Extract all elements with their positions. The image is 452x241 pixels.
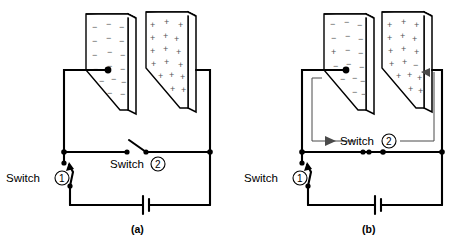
svg-text:−: −	[344, 17, 349, 27]
panel-b-caption: (b)	[362, 223, 375, 235]
svg-text:+: +	[150, 20, 155, 30]
panel-b-switch1-label-text: Switch	[244, 172, 278, 184]
capacitor-switch-figure: − − − − − − − − − − − − − − − − −	[0, 0, 452, 241]
svg-text:−: −	[361, 89, 366, 99]
svg-text:+: +	[414, 47, 419, 57]
svg-text:−: −	[119, 22, 124, 32]
panel-a-right-plate: + + + + + + + + + + + + + + + + +	[146, 12, 196, 112]
svg-text:+: +	[176, 47, 181, 57]
svg-text:−: −	[106, 19, 111, 29]
svg-text:−: −	[107, 88, 112, 98]
svg-text:−: −	[330, 19, 335, 29]
svg-text:+: +	[412, 34, 417, 44]
svg-text:−: −	[92, 50, 97, 60]
svg-text:+: +	[170, 84, 175, 94]
svg-text:+: +	[174, 34, 179, 44]
panel-b-node-left	[299, 149, 305, 155]
svg-text:+: +	[402, 57, 407, 67]
svg-text:−: −	[359, 62, 364, 72]
svg-text:+: +	[388, 46, 393, 56]
svg-text:+: +	[414, 20, 419, 30]
svg-text:+: +	[150, 33, 155, 43]
svg-text:+: +	[418, 86, 423, 96]
panel-a-left-plate: − − − − − − − − − − − − − − − − −	[86, 14, 136, 114]
svg-text:−: −	[121, 77, 126, 87]
panel-a-switch2-label: Switch 2	[110, 157, 165, 171]
svg-text:+: +	[331, 47, 336, 57]
svg-text:−: −	[345, 45, 350, 55]
svg-text:−: −	[107, 47, 112, 57]
svg-text:−: −	[331, 33, 336, 43]
panel-b-switch2-label: Switch 2	[340, 134, 396, 148]
svg-text:−: −	[357, 20, 362, 30]
svg-text:+: +	[150, 46, 155, 56]
panel-a-left-plate-terminal	[105, 67, 112, 74]
svg-text:−: −	[92, 36, 97, 46]
panel-a-node-left	[61, 149, 67, 155]
svg-text:+: +	[396, 71, 401, 81]
svg-text:−: −	[120, 50, 125, 60]
svg-text:−: −	[111, 74, 116, 84]
panel-a: − − − − − − − − − − − − − − − − −	[6, 12, 213, 235]
svg-text:+: +	[408, 84, 413, 94]
panel-b-node-right	[439, 149, 445, 155]
svg-text:+: +	[151, 59, 156, 69]
svg-text:+: +	[158, 71, 163, 81]
svg-text:+: +	[178, 60, 183, 70]
panel-b-switch2-number: 2	[386, 136, 392, 147]
svg-text:−: −	[92, 22, 97, 32]
svg-text:−: −	[340, 74, 345, 84]
panel-a-caption: (a)	[131, 223, 144, 235]
svg-text:+: +	[407, 70, 412, 80]
svg-text:+: +	[180, 72, 185, 82]
panel-b: − − − − − − + − − − − − − − − − −	[244, 12, 445, 235]
panel-a-battery	[126, 196, 160, 214]
panel-a-switch1-number: 1	[59, 173, 65, 184]
panel-a-switch2-label-text: Switch	[110, 158, 144, 170]
svg-text:−: −	[345, 31, 350, 41]
panel-b-switch1-number: 1	[297, 173, 303, 184]
svg-text:−: −	[106, 33, 111, 43]
svg-text:+: +	[163, 44, 168, 54]
svg-text:+: +	[163, 31, 168, 41]
svg-text:−: −	[352, 87, 357, 97]
svg-text:+: +	[401, 44, 406, 54]
svg-text:+: +	[401, 17, 406, 27]
svg-text:+: +	[387, 33, 392, 43]
svg-text:+: +	[389, 59, 394, 69]
svg-text:+: +	[181, 85, 186, 95]
panel-b-switch2-label-text: Switch	[340, 135, 374, 147]
panel-a-switch-2[interactable]	[124, 140, 148, 155]
panel-b-left-plate-terminal	[343, 67, 350, 74]
panel-b-left-plate: − − − − − − + − − − − − − − − − −	[324, 14, 374, 114]
panel-b-battery	[358, 196, 392, 214]
svg-text:−: −	[119, 36, 124, 46]
svg-text:+: +	[400, 31, 405, 41]
svg-text:+: +	[387, 20, 392, 30]
svg-text:−: −	[358, 34, 363, 44]
panel-a-switch1-label: Switch 1	[6, 171, 69, 185]
svg-text:−: −	[120, 89, 125, 99]
svg-text:+: +	[164, 17, 169, 27]
svg-text:+: +	[178, 20, 183, 30]
svg-text:+: +	[164, 57, 169, 67]
panel-b-switch-2[interactable]	[360, 149, 385, 155]
svg-text:−: −	[99, 76, 104, 86]
svg-text:+: +	[169, 70, 174, 80]
svg-text:+: +	[417, 73, 422, 83]
panel-a-switch2-number: 2	[155, 159, 161, 170]
svg-text:−: −	[413, 60, 418, 70]
panel-a-node-right	[207, 149, 213, 155]
panel-b-switch1-label: Switch 1	[244, 171, 307, 185]
svg-text:−: −	[120, 64, 125, 74]
panel-b-right-plate: + + + + + + + + + + + − + + + + +	[382, 12, 432, 112]
panel-a-switch1-label-text: Switch	[6, 172, 40, 184]
svg-text:−: −	[352, 73, 357, 83]
svg-text:−: −	[360, 76, 365, 86]
svg-text:−: −	[358, 48, 363, 58]
